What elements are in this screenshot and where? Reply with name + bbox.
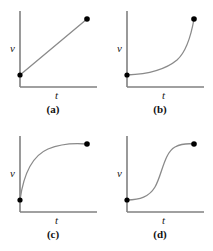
panel-a-caption: (a) — [0, 103, 106, 115]
y-axis-label: v — [117, 42, 122, 54]
panel-b-caption: (b) — [107, 103, 213, 115]
data-curve — [127, 19, 194, 75]
y-axis-label: v — [10, 167, 15, 179]
chart-panel-d: v t (d) — [107, 125, 213, 250]
panel-c-caption: (c) — [0, 228, 106, 240]
x-axis-label: t — [162, 89, 166, 101]
data-curve — [20, 144, 87, 200]
data-curve — [20, 19, 87, 75]
y-axis-label: v — [117, 167, 122, 179]
start-point-marker — [124, 197, 129, 202]
start-point-marker — [17, 197, 22, 202]
x-axis-label: t — [162, 214, 166, 226]
panel-d-caption: (d) — [107, 228, 213, 240]
x-axis-label: t — [55, 89, 59, 101]
end-point-marker — [191, 16, 197, 22]
start-point-marker — [17, 72, 22, 77]
start-point-marker — [124, 72, 129, 77]
velocity-time-graph-figure: v t (a) v t (b) v t (c) — [0, 0, 213, 251]
chart-panel-b: v t (b) — [107, 0, 213, 125]
y-axis-label: v — [10, 42, 15, 54]
data-curve — [127, 144, 194, 200]
chart-panel-a: v t (a) — [0, 0, 106, 125]
end-point-marker — [84, 141, 90, 147]
x-axis-label: t — [55, 214, 59, 226]
end-point-marker — [84, 16, 90, 22]
chart-panel-c: v t (c) — [0, 125, 106, 250]
end-point-marker — [191, 141, 197, 147]
